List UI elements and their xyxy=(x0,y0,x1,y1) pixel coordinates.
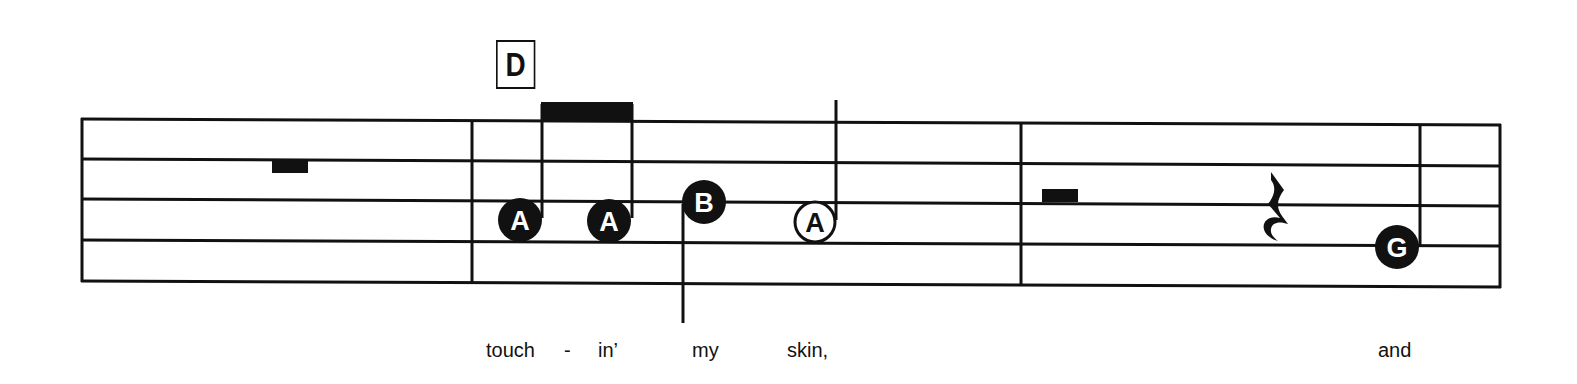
rehearsal-mark-label: D xyxy=(506,45,526,84)
note-a-2: A xyxy=(587,199,631,243)
rehearsal-mark: D xyxy=(496,40,535,89)
note-label: G xyxy=(1386,233,1407,263)
note-b: B xyxy=(682,180,726,224)
beam xyxy=(541,102,633,121)
staff-line-3 xyxy=(81,199,1501,206)
note-a-1: A xyxy=(498,198,542,242)
staff-line-5 xyxy=(81,281,1501,287)
quarter-rest-icon xyxy=(1264,172,1288,241)
whole-rest-icon xyxy=(272,160,308,173)
staff-line-1 xyxy=(81,119,1501,125)
staff-line-4 xyxy=(81,240,1501,246)
lyric-hyphen: - xyxy=(564,340,571,360)
lyric-word: and xyxy=(1378,340,1411,360)
note-g: G xyxy=(1375,225,1419,269)
music-staff-score: A A B A G xyxy=(0,0,1577,384)
note-a-half: A xyxy=(795,202,835,242)
staff-lines xyxy=(81,119,1501,287)
note-label: A xyxy=(805,208,825,238)
lyric-syllable: touch xyxy=(486,340,535,360)
lyric-word: skin, xyxy=(787,340,828,360)
half-rest-icon xyxy=(1042,189,1078,202)
note-label: A xyxy=(599,207,619,237)
note-label: B xyxy=(694,188,714,218)
lyric-word: my xyxy=(692,340,719,360)
lyric-syllable: in’ xyxy=(598,340,618,360)
note-label: A xyxy=(510,206,530,236)
